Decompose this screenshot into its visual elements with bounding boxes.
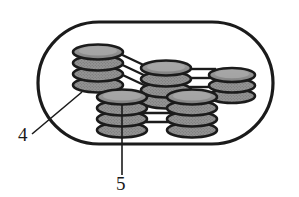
stack-lower-right [167, 90, 217, 138]
reference-label-4: 4 [18, 124, 28, 145]
reference-label-5: 5 [116, 173, 126, 194]
technical-diagram: 4 5 [0, 0, 299, 197]
figure-page: 4 5 [0, 0, 299, 197]
stack-upper-left [73, 45, 123, 93]
